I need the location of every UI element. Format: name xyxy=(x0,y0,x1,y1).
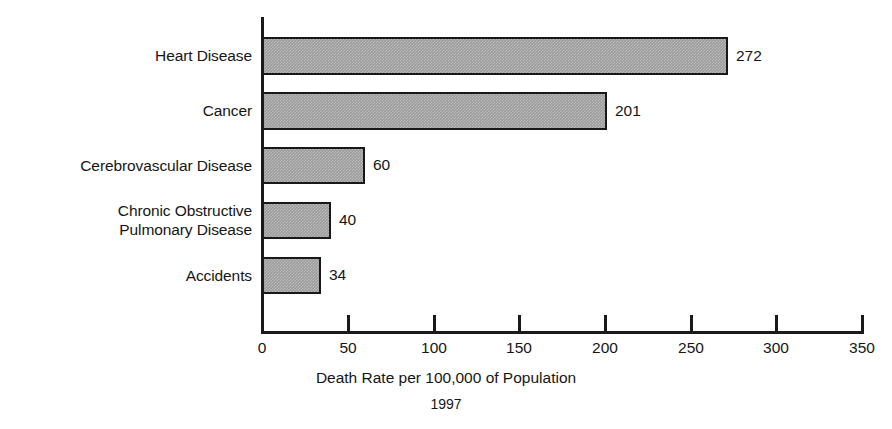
bar-value-accidents: 34 xyxy=(329,266,346,284)
bar-chart: Heart Disease Cancer Cerebrovascular Dis… xyxy=(0,0,892,429)
x-tick-100 xyxy=(433,315,436,332)
bar-cancer xyxy=(261,92,607,130)
x-tick-label-300: 300 xyxy=(763,338,789,357)
bar-accidents xyxy=(261,257,321,294)
x-tick-50 xyxy=(347,315,350,332)
x-tick-label-50: 50 xyxy=(339,338,356,357)
bar-value-cancer: 201 xyxy=(615,102,641,120)
x-tick-label-250: 250 xyxy=(678,338,704,357)
x-tick-350 xyxy=(861,315,864,332)
x-tick-label-100: 100 xyxy=(421,338,447,357)
category-label-cerebrovascular-disease: Cerebrovascular Disease xyxy=(80,156,252,175)
x-tick-label-350: 350 xyxy=(849,338,875,357)
bar-value-heart-disease: 272 xyxy=(736,47,762,65)
x-axis-line xyxy=(261,331,864,334)
x-axis-title: Death Rate per 100,000 of Population xyxy=(0,369,892,387)
x-tick-label-0: 0 xyxy=(258,338,267,357)
bar-value-chronic-obstructive-pulmonary-disease: 40 xyxy=(339,211,356,229)
plot-area: Heart Disease Cancer Cerebrovascular Dis… xyxy=(0,0,892,429)
category-label-chronic-obstructive-pulmonary-disease: Chronic Obstructive Pulmonary Disease xyxy=(118,201,252,239)
category-label-cancer: Cancer xyxy=(203,101,252,120)
x-tick-label-200: 200 xyxy=(592,338,618,357)
category-label-heart-disease: Heart Disease xyxy=(155,46,252,65)
x-tick-0 xyxy=(261,315,264,332)
x-tick-label-150: 150 xyxy=(506,338,532,357)
x-tick-150 xyxy=(518,315,521,332)
x-axis-subtitle: 1997 xyxy=(0,396,892,412)
x-tick-300 xyxy=(775,315,778,332)
category-label-accidents: Accidents xyxy=(186,266,252,285)
y-axis-line xyxy=(261,17,264,334)
bar-cerebrovascular-disease xyxy=(261,147,365,184)
bar-heart-disease xyxy=(261,37,728,75)
bar-chronic-obstructive-pulmonary-disease xyxy=(261,202,331,239)
x-tick-200 xyxy=(604,315,607,332)
bar-value-cerebrovascular-disease: 60 xyxy=(373,156,390,174)
x-tick-250 xyxy=(690,315,693,332)
